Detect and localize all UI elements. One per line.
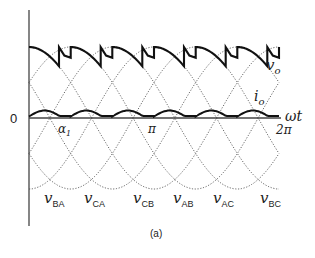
origin-label: 0 — [10, 111, 17, 126]
omega-t-axis-label: ωt — [285, 108, 302, 124]
vo-label: vo — [266, 56, 281, 76]
line-voltage-label: vAC — [213, 189, 234, 209]
line-voltage-label: vBC — [260, 189, 281, 209]
output-voltage-trace — [29, 47, 279, 66]
line-voltage-label: vBA — [44, 189, 65, 209]
io-label: io — [254, 88, 265, 107]
two-pi-tick-label: 2π — [275, 123, 293, 137]
line-voltage-label: vCB — [133, 189, 154, 209]
line-voltage-label: vCA — [84, 189, 105, 209]
figure-caption: (a) — [150, 228, 162, 239]
converter-waveform-diagram: 0 α1 π 2π ωt vo io vBAvCAvCBvABvACvBC (a… — [0, 0, 315, 258]
pi-tick-label: π — [147, 122, 157, 136]
output-current-trace — [29, 111, 279, 117]
line-voltage-labels: vBAvCAvCBvABvACvBC — [44, 189, 281, 209]
line-voltage-label: vAB — [173, 189, 194, 209]
alpha-tick-label: α1 — [58, 122, 71, 138]
